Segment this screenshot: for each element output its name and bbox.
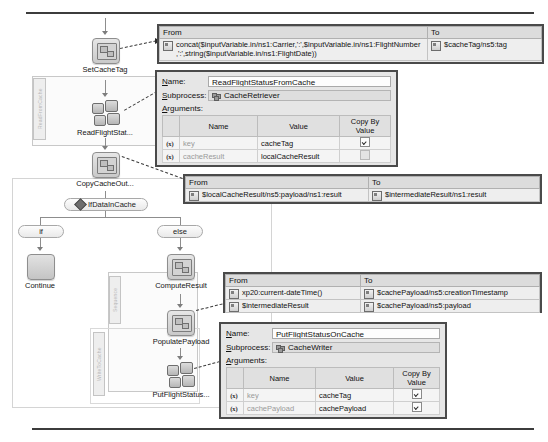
subprocess-value: CacheRetriever [224,90,280,101]
bottom-divider-rule [32,428,534,430]
branch-bar [40,217,180,218]
name-input[interactable]: PutFlightStatusOnCache [272,328,440,339]
from-cell[interactable]: xp20:current-dateTime() [226,287,361,300]
mapping-table-1: From To concat($inputVariable.in/ns1:Car… [159,26,542,61]
from-cell[interactable]: $localCacheResult/ns5:payload/ns1:result [186,189,369,202]
condition-label: IfDataInCache [88,200,136,209]
arg-value[interactable]: cacheTag [316,389,394,402]
node-put-flight-status[interactable] [167,362,195,388]
arrow-4 [177,304,183,308]
checkbox-icon[interactable] [412,402,422,412]
from-header: From [226,275,361,287]
arg-value[interactable]: cacheTag [258,137,340,150]
subprocess-label: Subprocess: [162,91,208,100]
checkbox-icon[interactable] [412,389,422,399]
node-label-continue: Continue [8,281,72,290]
node-label-populate-payload: PopulatePayload [140,337,222,346]
subprocess-row: Subprocess: CacheRetriever [162,90,391,101]
from-expression: xp20:current-dateTime() [242,288,322,297]
panel-set-cache-tag-mapping: From To concat($inputVariable.in/ns1:Car… [157,24,544,64]
node-compute-result[interactable] [167,254,195,280]
table-row[interactable]: (x) cacheResult localCacheResult [163,150,391,163]
from-expression: concat($inputVariable.in/ns1:Carrier,':'… [176,40,420,59]
arguments-table-2: Name Value Copy By Value (x) key cacheTa… [226,367,440,415]
table-header-row: From To [186,177,540,189]
row-variable-icon-cell: (x) [163,137,180,150]
node-set-cache-tag[interactable] [92,38,120,64]
arg-name[interactable]: cacheResult [180,150,258,163]
top-divider-rule [26,12,534,14]
node-label-read-flight-status: ReadFlightStat... [62,128,148,137]
switch-icon [74,198,87,211]
panel-put-flight-status-form: Name: PutFlightStatusOnCache Subprocess:… [219,322,447,419]
branch-if-label: if [39,227,43,236]
arg-value[interactable]: cachePayload [316,402,394,415]
table-row[interactable]: (x) key cacheTag [227,389,440,402]
to-cell[interactable]: $cacheTag/ns5:tag [428,39,542,61]
to-expression: $cacheTag/ns5:tag [444,40,507,49]
to-cell[interactable]: $cachePayload/ns5:creationTimestamp [361,287,540,300]
subprocess-icon [276,345,285,353]
arrow-if [37,247,43,251]
from-cell[interactable]: concat($inputVariable.in/ns1:Carrier,':'… [160,39,428,61]
variable-icon: (x) [230,405,238,412]
subprocess-select[interactable]: CacheWriter [272,342,440,353]
col-value: Value [316,368,394,389]
table-row[interactable]: $intermediateResult $cachePayload/ns5:pa… [226,300,540,313]
branch-drop-else [180,217,181,225]
arrow-else [177,247,183,251]
branch-else[interactable]: else [157,225,203,238]
node-read-flight-status[interactable] [92,100,120,126]
row-variable-icon-cell: (x) [227,389,244,402]
col-copy-by-value: Copy By Value [394,368,440,389]
arg-name[interactable]: key [180,137,258,150]
to-cell[interactable]: $cachePayload/ns5:payload [361,300,540,313]
to-header: To [428,27,542,39]
arg-copy-by-value[interactable] [340,137,391,150]
table-header-row: Name Value Copy By Value [163,116,391,137]
node-continue[interactable] [27,254,55,280]
table-row[interactable]: xp20:current-dateTime() $cachePayload/ns… [226,287,540,300]
subprocess-select[interactable]: CacheRetriever [208,90,391,101]
row-variable-icon-cell: (x) [227,402,244,415]
node-copy-cache-out[interactable] [92,152,120,178]
node-label-put-flight-status: PutFlightStatus... [138,390,224,399]
expression-icon [431,41,441,51]
table-row[interactable]: (x) key cacheTag [163,137,391,150]
table-row[interactable]: (x) cachePayload cachePayload [227,402,440,415]
name-row: Name: ReadFlightStatusFromCache [162,76,391,87]
arg-value[interactable]: localCacheResult [258,150,340,163]
row-variable-icon-cell: (x) [163,150,180,163]
from-header: From [186,177,369,189]
variable-icon: (x) [166,153,174,160]
arg-copy-by-value[interactable] [340,150,391,163]
arg-copy-by-value[interactable] [394,402,440,415]
name-input[interactable]: ReadFlightStatusFromCache [208,76,391,87]
expression-icon [189,191,199,201]
node-populate-payload[interactable] [167,310,195,336]
condition-if-data-in-cache[interactable]: IfDataInCache [64,198,148,211]
node-label-compute-result: ComputeResult [142,281,220,290]
arrow-entry [102,31,108,35]
variable-icon: (x) [166,140,174,147]
expression-icon [229,289,239,299]
from-cell[interactable]: $intermediateResult [226,300,361,313]
checkbox-icon[interactable] [360,137,370,147]
assign-icon [97,43,117,60]
arg-copy-by-value[interactable] [394,389,440,402]
checkbox-icon[interactable] [360,150,370,160]
table-row[interactable]: concat($inputVariable.in/ns1:Carrier,':'… [160,39,542,61]
expression-icon [163,41,173,51]
branch-drop-if [40,217,41,225]
panel-populate-payload-mapping: From To xp20:current-dateTime() $cachePa… [223,272,542,313]
table-row[interactable]: $localCacheResult/ns5:payload/ns1:result… [186,189,540,202]
arrow-5 [177,356,183,360]
to-cell[interactable]: $intermediateResult/ns1:result [369,189,540,202]
arg-name[interactable]: key [244,389,316,402]
arg-name[interactable]: cachePayload [244,402,316,415]
branch-if[interactable]: if [18,225,64,238]
arguments-label: Arguments: [162,104,391,113]
col-name: Name [244,368,316,389]
table-header-row: From To [160,27,542,39]
group-label-read-from-cache: ReadFromCache [33,78,46,140]
